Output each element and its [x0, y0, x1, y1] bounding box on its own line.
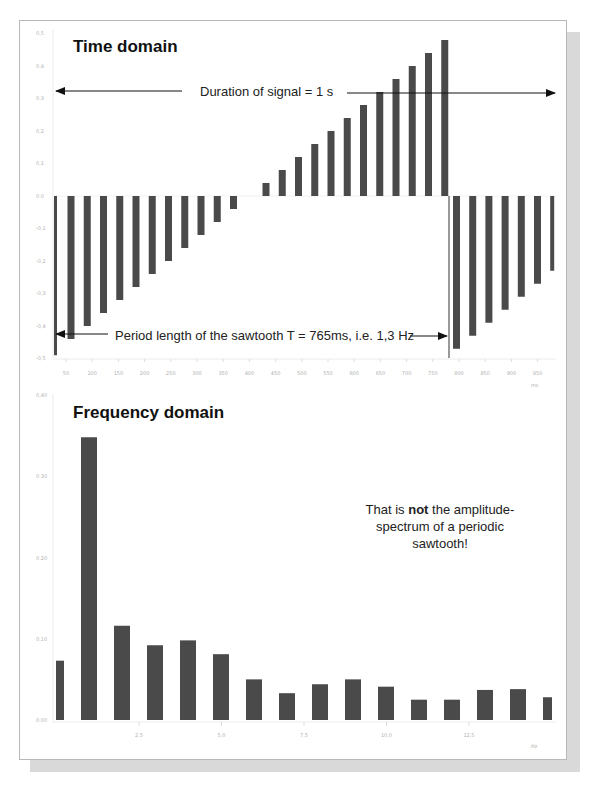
freq-bar	[180, 640, 196, 720]
y-tick-label: 0,1	[36, 160, 44, 166]
frequency-domain-title: Frequency domain	[73, 403, 224, 422]
time-bar	[84, 196, 91, 326]
x-tick-label: 800	[454, 370, 464, 376]
spectrum-note-line2: spectrum of a periodic	[376, 519, 504, 534]
duration-label: Duration of signal = 1 s	[200, 84, 334, 99]
time-bar	[133, 196, 140, 287]
x-tick-label: 450	[271, 370, 281, 376]
chart-canvas: 0,50,40,30,20,10,0-0,1-0,2-0,3-0,4-0,5 5…	[0, 0, 594, 785]
freq-bar	[444, 700, 460, 720]
time-bar	[550, 196, 554, 271]
freq-bars	[56, 437, 552, 720]
freq-y-ticks: 0,400,300,200,100,00	[36, 392, 47, 723]
x-tick-label: 550	[323, 370, 333, 376]
time-bar	[198, 196, 205, 235]
time-bar	[425, 53, 432, 196]
time-bar	[295, 157, 302, 196]
y-tick-label: 0,5	[36, 30, 44, 36]
note-text: That is	[366, 502, 409, 517]
y-tick-label: 0,30	[36, 473, 47, 479]
y-tick-label: 0,40	[36, 392, 47, 398]
x-tick-label: 350	[218, 370, 228, 376]
time-x-unit: ms	[531, 382, 539, 388]
time-bar	[54, 196, 57, 355]
x-tick-label: 750	[428, 370, 438, 376]
x-tick-label: 150	[114, 370, 124, 376]
x-tick-label: 50	[63, 370, 69, 376]
time-bar	[279, 170, 286, 196]
x-tick-label: 900	[507, 370, 517, 376]
x-tick-label: 400	[245, 370, 255, 376]
freq-bar	[411, 700, 427, 720]
x-tick-label: 12,5	[463, 732, 474, 738]
time-bar	[409, 66, 416, 196]
freq-bar	[56, 661, 64, 720]
time-bar	[360, 105, 367, 196]
x-tick-label: 250	[166, 370, 176, 376]
freq-bar	[345, 679, 361, 720]
frequency-domain-chart: 0,400,300,200,100,00 2,55,07,510,012,5 F…	[36, 392, 556, 749]
y-tick-label: 0,2	[36, 128, 44, 134]
time-bar	[116, 196, 123, 300]
x-tick-label: 100	[87, 370, 97, 376]
x-tick-label: 700	[402, 370, 412, 376]
y-tick-label: -0,5	[36, 355, 46, 361]
freq-x-unit: Hz	[531, 743, 538, 749]
time-bar	[376, 92, 383, 196]
time-bar	[453, 196, 460, 349]
freq-bar	[510, 689, 526, 720]
x-tick-label: 7,5	[300, 732, 308, 738]
time-domain-chart: 0,50,40,30,20,10,0-0,1-0,2-0,3-0,4-0,5 5…	[36, 30, 556, 388]
note-text: the amplitude-	[428, 502, 514, 517]
time-bar	[149, 196, 156, 274]
time-bar	[441, 40, 448, 196]
time-bar	[214, 196, 221, 222]
spectrum-note-line1: That is not the amplitude-	[366, 502, 515, 517]
y-tick-label: 0,20	[36, 555, 47, 561]
time-x-ticks: 5010015020025030035040045050055060065070…	[63, 359, 543, 376]
y-tick-label: 0,0	[36, 193, 44, 199]
x-tick-label: 500	[297, 370, 307, 376]
y-tick-label: 0,3	[36, 95, 44, 101]
freq-bar	[246, 679, 262, 720]
time-bar	[328, 131, 335, 196]
y-tick-label: -0,2	[36, 258, 46, 264]
note-bold-text: not	[408, 502, 429, 517]
time-domain-title: Time domain	[73, 37, 178, 56]
freq-bar	[213, 654, 229, 720]
time-bar	[469, 196, 476, 336]
time-bar	[100, 196, 107, 313]
x-tick-label: 200	[140, 370, 150, 376]
freq-bar	[378, 687, 394, 720]
time-bar	[393, 79, 400, 196]
freq-bar	[114, 626, 130, 720]
freq-bar	[279, 693, 295, 720]
freq-bar	[81, 437, 97, 720]
time-bar	[181, 196, 188, 248]
time-bar	[68, 196, 75, 339]
x-tick-label: 600	[349, 370, 359, 376]
time-bar	[311, 144, 318, 196]
freq-bar	[312, 684, 328, 720]
time-bar	[230, 196, 237, 209]
time-bar	[534, 196, 541, 284]
x-tick-label: 2,5	[135, 732, 143, 738]
x-tick-label: 650	[376, 370, 386, 376]
freq-x-ticks: 2,55,07,510,012,5	[135, 722, 475, 738]
period-label: Period length of the sawtooth T = 765ms,…	[115, 328, 414, 343]
spectrum-note-line3: sawtooth!	[412, 536, 468, 551]
x-tick-label: 950	[533, 370, 543, 376]
time-bar	[165, 196, 172, 261]
y-tick-label: 0,4	[36, 63, 44, 69]
y-tick-label: 0,00	[36, 717, 47, 723]
y-tick-label: -0,1	[36, 225, 46, 231]
time-bar	[502, 196, 509, 310]
time-bar	[518, 196, 525, 297]
time-y-ticks: 0,50,40,30,20,10,0-0,1-0,2-0,3-0,4-0,5	[36, 30, 46, 361]
y-tick-label: -0,4	[36, 323, 46, 329]
y-tick-label: -0,3	[36, 290, 46, 296]
x-tick-label: 10,0	[381, 732, 392, 738]
x-tick-label: 300	[192, 370, 202, 376]
time-bar	[263, 183, 270, 196]
freq-bar	[477, 690, 493, 720]
